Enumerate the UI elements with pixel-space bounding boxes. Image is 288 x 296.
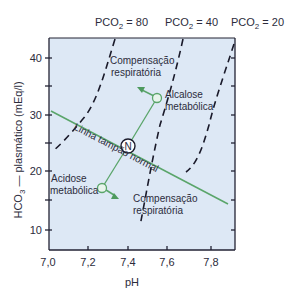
- x-tick-label: 7,8: [203, 256, 218, 268]
- x-axis-label: pH: [125, 276, 139, 288]
- pco2-80-label: PCO2 = 80: [95, 16, 148, 31]
- x-tick-labels: 7,0 7,2 7,4 7,6 7,8: [40, 256, 218, 268]
- x-tick-label: 7,2: [80, 256, 95, 268]
- annotation-compensation-bottom: Compensação: [133, 193, 198, 204]
- annotation-compensation-top: respiratória: [111, 67, 161, 78]
- y-tick-label: 30: [30, 109, 42, 121]
- x-tick-label: 7,0: [40, 256, 55, 268]
- pco2-20-label: PCO2 = 20: [231, 16, 284, 31]
- y-tick-label: 20: [30, 165, 42, 177]
- annotation-alkalosis: Alcalose: [165, 89, 203, 100]
- annotation-acidosis: metabólica: [50, 185, 99, 196]
- point-alkalosis: [153, 94, 162, 103]
- y-axis-label: HCO3 — plasmático (mEq/l): [12, 81, 27, 218]
- x-tick-label: 7,6: [159, 256, 174, 268]
- acid-base-chart: N 40 30 20 10 7: [0, 0, 288, 296]
- annotation-compensation-bottom: respiratória: [133, 205, 183, 216]
- annotation-compensation-top: Compensação: [110, 55, 175, 66]
- annotation-alkalosis: metabólica: [165, 101, 214, 112]
- y-tick-label: 10: [30, 224, 42, 236]
- y-tick-labels: 40 30 20 10: [30, 52, 42, 236]
- annotation-acidosis: Acidose: [51, 173, 87, 184]
- y-tick-label: 40: [30, 52, 42, 64]
- x-tick-label: 7,4: [120, 256, 135, 268]
- pco2-40-label: PCO2 = 40: [165, 16, 218, 31]
- point-acidosis: [98, 184, 107, 193]
